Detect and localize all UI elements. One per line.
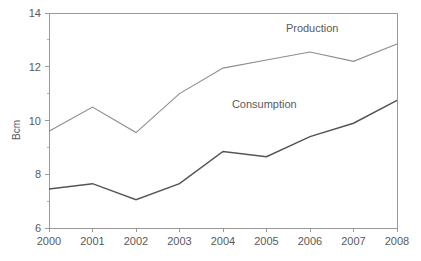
series-annotation-production: Production bbox=[286, 22, 339, 34]
y-axis-tick-labels: 68101214 bbox=[29, 7, 41, 234]
x-tick-label: 2000 bbox=[37, 235, 61, 247]
series-line-production bbox=[49, 44, 397, 133]
x-tick-label: 2001 bbox=[80, 235, 104, 247]
y-tick-label: 10 bbox=[29, 115, 41, 127]
chart-canvas: 68101214 2000200120022003200420052006200… bbox=[0, 0, 421, 261]
series-annotation-consumption: Consumption bbox=[232, 98, 297, 110]
x-tick-label: 2004 bbox=[211, 235, 235, 247]
line-chart: 68101214 2000200120022003200420052006200… bbox=[0, 0, 421, 261]
y-axis-ticks bbox=[45, 13, 49, 228]
series-line-consumption bbox=[49, 100, 397, 199]
y-tick-label: 14 bbox=[29, 7, 41, 19]
x-tick-label: 2005 bbox=[254, 235, 278, 247]
x-tick-label: 2008 bbox=[385, 235, 409, 247]
x-axis-ticks bbox=[49, 228, 397, 232]
x-tick-label: 2003 bbox=[167, 235, 191, 247]
x-axis-tick-labels: 200020012002200320042005200620072008 bbox=[37, 235, 409, 247]
y-tick-label: 6 bbox=[35, 222, 41, 234]
y-axis-title: Bcm bbox=[11, 120, 22, 140]
plot-frame bbox=[49, 13, 397, 228]
x-tick-label: 2006 bbox=[298, 235, 322, 247]
y-tick-label: 8 bbox=[35, 168, 41, 180]
data-series-group bbox=[49, 44, 397, 200]
x-tick-label: 2002 bbox=[124, 235, 148, 247]
series-annotations: ProductionConsumption bbox=[232, 22, 339, 109]
plot-border bbox=[49, 13, 397, 228]
y-tick-label: 12 bbox=[29, 61, 41, 73]
x-tick-label: 2007 bbox=[341, 235, 365, 247]
